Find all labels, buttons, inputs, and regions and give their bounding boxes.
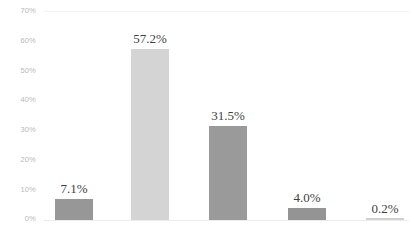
bar-5[interactable] <box>366 218 404 220</box>
y-axis-tick-label: 0% <box>0 215 36 223</box>
y-axis-tick-label: 50% <box>0 67 36 75</box>
bar-4[interactable] <box>288 208 326 220</box>
bar-value-label: 57.2% <box>118 31 182 46</box>
bar-value-label: 4.0% <box>275 190 339 205</box>
bar-3[interactable] <box>209 126 247 220</box>
axis-baseline <box>44 220 409 221</box>
bar-value-label: 0.2% <box>353 201 414 216</box>
y-axis-tick-label: 20% <box>0 156 36 164</box>
gridline-top <box>44 11 409 12</box>
bar-value-label: 31.5% <box>196 108 260 123</box>
bar-chart: 70% 60% 50% 40% 30% 20% 10% 0% 7.1% 57.2… <box>0 0 414 228</box>
y-axis-tick-label: 60% <box>0 37 36 45</box>
y-axis-tick-label: 10% <box>0 186 36 194</box>
y-axis-tick-label: 30% <box>0 126 36 134</box>
bar-1[interactable] <box>55 199 93 220</box>
y-axis-tick-label: 40% <box>0 96 36 104</box>
bar-value-label: 7.1% <box>42 181 106 196</box>
bar-2[interactable] <box>131 49 169 220</box>
y-axis-tick-label: 70% <box>0 7 36 15</box>
